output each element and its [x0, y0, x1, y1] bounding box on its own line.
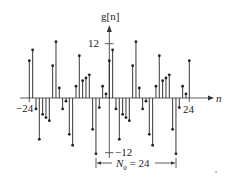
x-tick-label-right: 24 [183, 104, 194, 115]
stem-marker [105, 93, 108, 96]
stem-marker [168, 73, 171, 76]
stem-marker [178, 106, 181, 109]
x-axis-arrow-icon [208, 96, 214, 101]
stem-marker [185, 93, 188, 96]
stray-mark: , [215, 166, 217, 174]
stem-marker [188, 59, 191, 62]
stem-marker [38, 138, 41, 141]
stem-marker [35, 108, 38, 111]
stem-marker [141, 108, 144, 111]
axes [20, 25, 214, 158]
stem-marker [41, 113, 44, 116]
stem-marker [48, 119, 51, 122]
y-axis-label: g[n] [101, 11, 119, 22]
stem-marker [115, 108, 118, 111]
stem-marker [65, 100, 68, 103]
x-tick-label-left: −24 [16, 103, 33, 114]
stem-marker [58, 87, 61, 90]
stem-marker [68, 133, 71, 136]
stem-marker [101, 85, 104, 88]
y-axis-arrow-icon [107, 25, 112, 32]
stem-marker [55, 40, 58, 43]
stem-marker [121, 113, 124, 116]
stem-marker [98, 106, 101, 109]
stem-marker [125, 116, 128, 119]
stem-marker [95, 152, 98, 155]
stem-marker [181, 85, 184, 88]
stem-marker [61, 108, 64, 111]
stem-marker [128, 119, 131, 122]
stem-marker [108, 59, 111, 62]
stem-marker [161, 79, 164, 82]
stem-marker [51, 64, 54, 67]
x-axis-label: n [216, 93, 222, 104]
stem-marker [175, 152, 178, 155]
stem-marker [155, 85, 158, 88]
stem-marker [118, 138, 121, 141]
stem-marker [135, 40, 138, 43]
stem-marker [148, 133, 151, 136]
period-annotation: N0 = 24 [116, 158, 150, 172]
stem-marker [138, 87, 141, 90]
stem-marker [85, 77, 88, 80]
stem-marker [151, 144, 154, 147]
stem-marker [75, 85, 78, 88]
stem-marker [158, 54, 161, 57]
stem-marker [111, 48, 114, 51]
stem-marker [91, 128, 94, 131]
stem-marker [31, 48, 34, 51]
stem-marker [131, 64, 134, 67]
stem-marker [171, 128, 174, 131]
stem-marker [28, 59, 31, 62]
stem-marker [81, 79, 84, 82]
stem-marker [165, 77, 168, 80]
stem-marker [78, 54, 81, 57]
y-tick-label-top: 12 [88, 38, 99, 49]
stem-marker [71, 144, 74, 147]
stem-marker [145, 100, 148, 103]
stem-marker [45, 116, 48, 119]
stem-marker [88, 73, 91, 76]
